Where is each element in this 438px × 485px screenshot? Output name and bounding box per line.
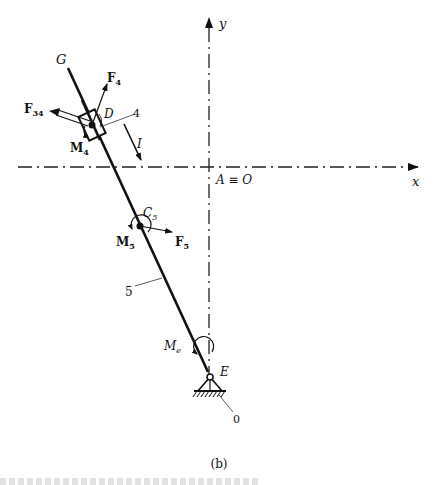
clipped-text-line [0, 478, 260, 485]
direction-label-i: I [136, 137, 142, 151]
force-f4-label: F4 [107, 71, 122, 87]
y-axis: y [209, 16, 227, 380]
link-5-leader [135, 278, 162, 286]
point-g-label: G [56, 52, 66, 67]
moment-m5-label: M5 [116, 235, 135, 251]
ground-leader [219, 395, 233, 412]
moment-m4-label: M4 [70, 141, 89, 157]
moment-me-label: Me [163, 339, 181, 355]
slider-4-label: 4 [133, 107, 140, 120]
x-axis-label: x [412, 174, 420, 189]
figure-caption: (b) [210, 457, 227, 471]
y-axis-label: y [218, 16, 227, 31]
point-e-label: E [219, 365, 229, 379]
ground-label: 0 [233, 413, 240, 426]
mechanism-diagram: x y A ≡ O G 5 D 4 F4 F34 M4 I C5 M5 F5 [0, 0, 438, 485]
origin-label: A ≡ O [215, 173, 252, 187]
joint-e [207, 374, 213, 380]
force-f5-label: F5 [175, 235, 189, 251]
force-f5-arrow [140, 226, 172, 232]
link-5-label: 5 [125, 285, 133, 299]
point-d-label: D [103, 107, 114, 121]
force-f34-label: F34 [24, 102, 44, 118]
